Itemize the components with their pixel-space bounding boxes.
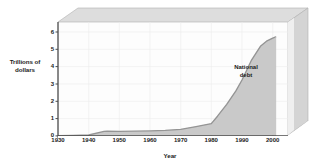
series-annotation-national-debt: National debt — [224, 64, 268, 79]
y-tick-label-5: 5 — [42, 46, 54, 53]
frame-right-ledge — [288, 18, 294, 135]
annotation-line1: National — [224, 64, 268, 72]
x-tick-label-2000: 2000 — [260, 137, 286, 144]
x-axis-title: Year — [130, 152, 210, 159]
y-axis-ticks — [56, 32, 59, 136]
frame-top-face — [58, 8, 308, 22]
y-tick-label-3: 3 — [42, 81, 54, 88]
frame-right-face — [288, 8, 308, 135]
annotation-line2: debt — [224, 72, 268, 80]
y-tick-label-6: 6 — [42, 29, 54, 36]
y-tick-label-2: 2 — [42, 98, 54, 105]
x-tick-label-1960: 1960 — [137, 137, 163, 144]
line-national-debt — [58, 37, 276, 136]
x-tick-label-1990: 1990 — [229, 137, 255, 144]
x-tick-label-1970: 1970 — [168, 137, 194, 144]
area-fill-national-debt — [58, 37, 276, 136]
x-tick-label-1940: 1940 — [76, 137, 102, 144]
chart-screenshot: Trillions of dollars 0 1 2 3 4 5 6 1930 … — [0, 0, 327, 165]
y-tick-label-1: 1 — [42, 115, 54, 122]
x-tick-label-1950: 1950 — [106, 137, 132, 144]
x-tick-label-1930: 1930 — [45, 137, 71, 144]
y-tick-label-4: 4 — [42, 63, 54, 70]
x-tick-label-1980: 1980 — [198, 137, 224, 144]
